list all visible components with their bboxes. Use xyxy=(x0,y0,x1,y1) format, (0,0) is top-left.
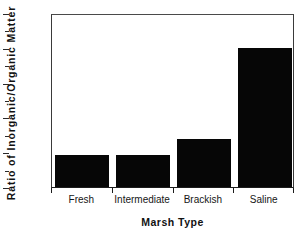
y-tick-minor xyxy=(5,31,9,32)
y-tick-major xyxy=(3,49,9,50)
x-axis-title: Marsh Type xyxy=(51,216,294,228)
y-tick-major xyxy=(3,188,9,189)
bar-fresh xyxy=(55,155,109,187)
y-axis-title: Ratio of Inorganic/Organic Matter xyxy=(2,10,20,196)
y-tick-major xyxy=(3,118,9,119)
y-tick-minor xyxy=(5,136,9,137)
y-tick-major xyxy=(3,153,9,154)
y-tick-minor xyxy=(5,66,9,67)
x-tick xyxy=(51,188,52,193)
bar-series xyxy=(52,15,293,187)
bar-chart-figure: Ratio of Inorganic/Organic Matter 012345… xyxy=(0,0,303,240)
x-tick xyxy=(293,188,294,193)
bar-brackish xyxy=(177,139,231,187)
x-tick xyxy=(173,188,174,193)
bar-saline xyxy=(238,48,292,187)
y-tick-minor xyxy=(5,101,9,102)
y-tick-major xyxy=(3,84,9,85)
x-tick xyxy=(112,188,113,193)
x-category-label: Saline xyxy=(204,194,303,206)
y-tick-minor xyxy=(5,171,9,172)
x-tick xyxy=(233,188,234,193)
plot-area xyxy=(51,14,294,188)
bar-intermediate xyxy=(116,155,170,187)
y-tick-major xyxy=(3,14,9,15)
